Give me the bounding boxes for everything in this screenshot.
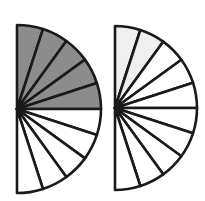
fraction-diagram [0,0,205,201]
left-semicircle [17,25,101,193]
right-semicircle [115,26,197,190]
